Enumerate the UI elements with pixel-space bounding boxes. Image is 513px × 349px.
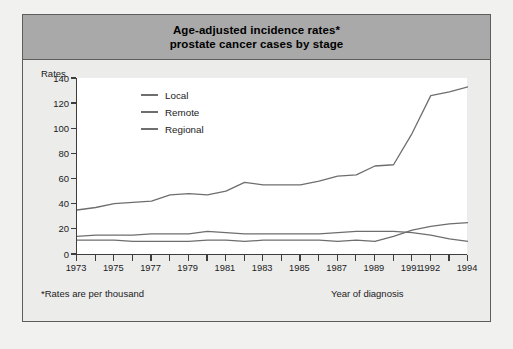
legend-line-swatch: [141, 94, 158, 96]
y-axis-tick-0: 0: [64, 248, 76, 260]
x-axis-tick-mark: [132, 255, 133, 261]
chart-title-band: Age-adjusted incidence rates* prostate c…: [23, 15, 490, 60]
x-axis-tick-mark: [374, 255, 375, 261]
x-axis-tick-label: 1981: [215, 263, 236, 273]
x-axis-title: Year of diagnosis: [331, 288, 404, 299]
legend-item-local: Local: [141, 88, 204, 102]
x-axis-tick-label: 1989: [364, 263, 385, 273]
chart-title-line-2: prostate cancer cases by stage: [170, 37, 344, 51]
x-axis-tick-mark: [299, 255, 300, 261]
y-axis-tick-100: 100: [53, 122, 76, 134]
legend-item-remote: Remote: [141, 105, 204, 119]
y-axis-tick-label: 0: [64, 249, 69, 260]
footnote-text: *Rates are per thousand: [41, 288, 144, 299]
legend-label: Local: [165, 90, 188, 101]
x-axis-tick-label: 1994: [457, 263, 478, 273]
y-axis-tick-60: 60: [58, 173, 76, 185]
x-axis-tick-label: 1985: [289, 263, 310, 273]
x-axis-tick-label: 1973: [66, 263, 87, 273]
x-axis-tick-mark: [281, 255, 282, 261]
x-axis-tick-mark: [206, 255, 207, 261]
x-axis-tick-mark: [337, 255, 338, 261]
x-axis-tick-label: 1977: [140, 263, 161, 273]
y-axis-tick-label: 100: [53, 123, 69, 134]
legend-line-swatch: [141, 111, 158, 113]
x-axis-tick-mark: [169, 255, 170, 261]
x-axis-tick-marks: [76, 255, 467, 262]
x-axis-tick-mark: [467, 255, 468, 261]
y-axis-tick-label: 20: [58, 223, 69, 234]
x-axis-tick-mark: [393, 255, 394, 261]
x-axis-tick-label: 1975: [103, 263, 124, 273]
x-axis-tick-mark: [448, 255, 449, 261]
y-axis-tick-40: 40: [58, 198, 76, 210]
y-axis-tick-label: 140: [53, 73, 69, 84]
x-axis-tick-label: 1979: [177, 263, 198, 273]
x-axis-tick-mark: [113, 255, 114, 261]
x-axis-tick-label: 1987: [326, 263, 347, 273]
x-axis-tick-mark: [225, 255, 226, 261]
x-axis-tick-mark: [188, 255, 189, 261]
x-axis-tick-mark: [150, 255, 151, 261]
x-axis-tick-mark: [244, 255, 245, 261]
legend-item-regional: Regional: [141, 122, 204, 136]
x-axis-tick-mark: [411, 255, 412, 261]
chart-lines-svg: [77, 78, 468, 254]
x-axis-tick-mark: [262, 255, 263, 261]
y-axis-tick-80: 80: [58, 147, 76, 159]
y-axis-tick-label: 80: [58, 148, 69, 159]
y-axis-tick-120: 120: [53, 97, 76, 109]
y-axis-tick-140: 140: [53, 72, 76, 84]
chart-title-line-1: Age-adjusted incidence rates*: [173, 23, 340, 37]
x-axis-tick-mark: [76, 255, 77, 261]
figure-container: Age-adjusted incidence rates* prostate c…: [22, 14, 491, 322]
plot-zone: Rates 020406080100120140 197319751977197…: [23, 60, 490, 323]
x-axis-tick-label: 1991: [401, 263, 422, 273]
chart-legend: LocalRemoteRegional: [141, 88, 204, 139]
x-axis-tick-label: 1983: [252, 263, 273, 273]
chart-plot-area: [76, 78, 467, 254]
legend-line-swatch: [141, 128, 158, 130]
y-axis-tick-label: 40: [58, 198, 69, 209]
legend-label: Regional: [165, 124, 204, 135]
x-axis-tick-mark: [318, 255, 319, 261]
x-axis-tick-labels: 1973197519771979198119831985198719891991…: [23, 263, 490, 277]
x-axis-tick-mark: [430, 255, 431, 261]
x-axis-tick-mark: [95, 255, 96, 261]
y-axis-tick-20: 20: [58, 223, 76, 235]
legend-label: Remote: [165, 107, 199, 118]
y-axis-tick-label: 60: [58, 173, 69, 184]
series-line-local: [77, 87, 468, 210]
y-axis-ticks: 020406080100120140: [23, 60, 76, 272]
x-axis-tick-mark: [355, 255, 356, 261]
x-axis-tick-label: 1992: [419, 263, 440, 273]
y-axis-tick-label: 120: [53, 98, 69, 109]
